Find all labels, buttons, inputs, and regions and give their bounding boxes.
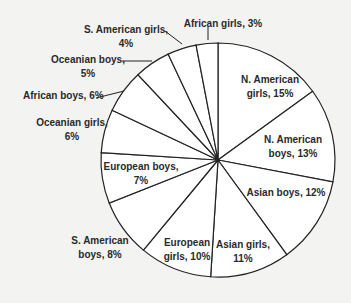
slice-label: Oceanian girls,6% xyxy=(36,117,108,142)
slice-label: Asian boys, 12% xyxy=(247,187,326,198)
slice-label: S. American girls,4% xyxy=(84,24,168,49)
pie-chart: N. Americangirls, 15%N. Americanboys, 13… xyxy=(0,0,351,303)
slice-label: African boys, 6% xyxy=(23,90,104,101)
slice-label: Oceanian boys,5% xyxy=(51,54,125,79)
slice-label: African girls, 3% xyxy=(184,18,262,29)
slice-label: S. Americanboys, 8% xyxy=(71,235,128,260)
